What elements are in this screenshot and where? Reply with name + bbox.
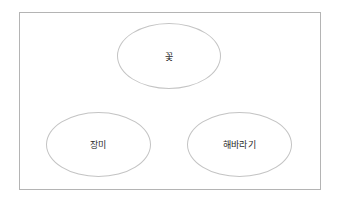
node-flower: 꽃 <box>117 23 221 89</box>
node-rose: 장미 <box>46 112 151 177</box>
node-sunflower-label: 해바라기 <box>223 138 256 151</box>
node-flower-label: 꽃 <box>165 50 173 63</box>
node-sunflower: 해바라기 <box>187 112 292 177</box>
node-rose-label: 장미 <box>90 138 106 151</box>
